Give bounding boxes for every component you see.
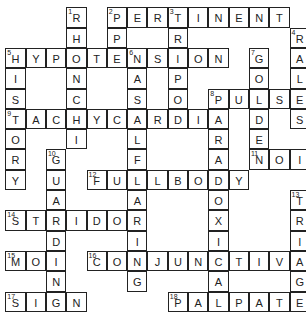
grid-cell[interactable]: P [46, 48, 66, 68]
grid-cell[interactable]: S [5, 89, 25, 109]
grid-cell[interactable]: R [147, 109, 167, 129]
grid-cell[interactable]: T [269, 7, 289, 27]
grid-cell[interactable]: O [208, 190, 228, 210]
grid-cell[interactable]: Y [229, 170, 249, 190]
grid-cell[interactable]: N [127, 251, 147, 271]
grid-cell[interactable]: R [46, 210, 66, 230]
grid-cell[interactable]: T [269, 292, 289, 312]
grid-cell[interactable]: S [147, 48, 167, 68]
grid-cell[interactable]: I [26, 292, 46, 312]
grid-cell[interactable]: 5H [5, 48, 25, 68]
grid-cell[interactable]: I [188, 7, 208, 27]
grid-cell[interactable]: N [208, 7, 228, 27]
grid-cell[interactable]: A [127, 109, 147, 129]
grid-cell[interactable]: A [127, 190, 147, 210]
grid-cell[interactable]: U [229, 89, 249, 109]
grid-cell[interactable]: H [66, 28, 86, 48]
grid-cell[interactable]: E [127, 7, 147, 27]
grid-cell[interactable]: 8P [208, 89, 228, 109]
grid-cell[interactable]: O [168, 89, 188, 109]
grid-cell[interactable]: D [46, 231, 66, 251]
grid-cell[interactable]: A [249, 292, 269, 312]
grid-cell[interactable]: O [107, 251, 127, 271]
grid-cell[interactable]: U [107, 170, 127, 190]
grid-cell[interactable]: L [290, 68, 306, 88]
grid-cell[interactable]: U [46, 170, 66, 190]
grid-cell[interactable]: L [127, 129, 147, 149]
grid-cell[interactable]: 1R [66, 7, 86, 27]
grid-cell[interactable]: O [188, 48, 208, 68]
grid-cell[interactable]: 17S [5, 292, 25, 312]
grid-cell[interactable]: 2P [107, 7, 127, 27]
grid-cell[interactable]: E [290, 89, 306, 109]
grid-cell[interactable]: A [127, 68, 147, 88]
grid-cell[interactable]: L [208, 292, 228, 312]
grid-cell[interactable]: C [66, 89, 86, 109]
grid-cell[interactable]: E [107, 48, 127, 68]
grid-cell[interactable]: D [249, 109, 269, 129]
grid-cell[interactable]: L [147, 170, 167, 190]
grid-cell[interactable]: 7G [249, 48, 269, 68]
grid-cell[interactable]: F [127, 149, 147, 169]
grid-cell[interactable]: D [87, 210, 107, 230]
grid-cell[interactable]: G [290, 271, 306, 291]
grid-cell[interactable]: A [46, 190, 66, 210]
grid-cell[interactable]: I [188, 109, 208, 129]
grid-cell[interactable]: R [147, 7, 167, 27]
grid-cell[interactable]: O [249, 68, 269, 88]
grid-cell[interactable]: 6N [127, 48, 147, 68]
grid-cell[interactable]: I [127, 231, 147, 251]
grid-cell[interactable]: A [26, 109, 46, 129]
grid-cell[interactable]: G [127, 271, 147, 291]
grid-cell[interactable]: U [168, 251, 188, 271]
grid-cell[interactable]: P [168, 68, 188, 88]
grid-cell[interactable]: I [66, 129, 86, 149]
grid-cell[interactable]: P [229, 292, 249, 312]
grid-cell[interactable]: I [5, 68, 25, 88]
grid-cell[interactable]: O [66, 48, 86, 68]
grid-cell[interactable]: T [26, 210, 46, 230]
grid-cell[interactable]: O [26, 251, 46, 271]
grid-cell[interactable]: A [290, 251, 306, 271]
grid-cell[interactable]: 11N [249, 149, 269, 169]
grid-cell[interactable]: O [269, 149, 289, 169]
grid-cell[interactable]: N [46, 271, 66, 291]
grid-cell[interactable]: 15M [5, 251, 25, 271]
grid-cell[interactable]: 4R [290, 28, 306, 48]
grid-cell[interactable]: I [66, 210, 86, 230]
grid-cell[interactable]: A [188, 292, 208, 312]
grid-cell[interactable]: R [5, 149, 25, 169]
grid-cell[interactable]: C [46, 109, 66, 129]
grid-cell[interactable]: A [208, 271, 228, 291]
grid-cell[interactable]: A [208, 109, 228, 129]
grid-cell[interactable]: N [208, 48, 228, 68]
grid-cell[interactable]: L [249, 89, 269, 109]
grid-cell[interactable]: X [208, 210, 228, 230]
grid-cell[interactable]: R [208, 129, 228, 149]
grid-cell[interactable]: L [127, 170, 147, 190]
grid-cell[interactable]: 12F [87, 170, 107, 190]
grid-cell[interactable]: Y [5, 170, 25, 190]
grid-cell[interactable]: S [290, 109, 306, 129]
grid-cell[interactable]: A [208, 149, 228, 169]
grid-cell[interactable]: 10G [46, 149, 66, 169]
grid-cell[interactable]: 16C [87, 251, 107, 271]
grid-cell[interactable]: E [229, 7, 249, 27]
grid-cell[interactable]: S [269, 89, 289, 109]
grid-cell[interactable]: 13T [290, 190, 306, 210]
grid-cell[interactable]: I [46, 251, 66, 271]
grid-cell[interactable]: O [188, 170, 208, 190]
grid-cell[interactable]: Y [87, 109, 107, 129]
grid-cell[interactable]: V [269, 251, 289, 271]
grid-cell[interactable]: I [208, 231, 228, 251]
grid-cell[interactable]: 3T [168, 7, 188, 27]
grid-cell[interactable]: D [168, 109, 188, 129]
grid-cell[interactable]: 18P [168, 292, 188, 312]
grid-cell[interactable]: C [208, 251, 228, 271]
grid-cell[interactable]: E [290, 292, 306, 312]
grid-cell[interactable]: H [66, 109, 86, 129]
grid-cell[interactable]: N [188, 251, 208, 271]
grid-cell[interactable]: T [87, 48, 107, 68]
grid-cell[interactable]: E [249, 129, 269, 149]
grid-cell[interactable]: Y [26, 48, 46, 68]
